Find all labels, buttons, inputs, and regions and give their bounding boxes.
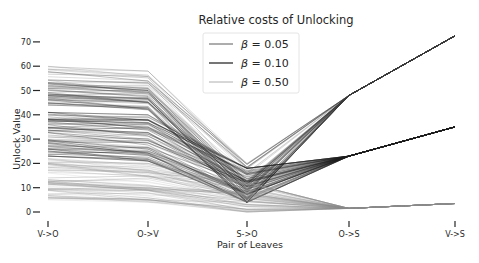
x-tick-label: O->S — [338, 230, 359, 239]
x-axis-label: Pair of Leaves — [217, 239, 283, 250]
legend-label: β = 0.05 — [240, 38, 289, 51]
series-lines — [48, 159, 455, 212]
y-tick-label: 60 — [21, 62, 31, 71]
y-tick-label: 50 — [21, 87, 31, 96]
parallel-coordinates-chart: Relative costs of Unlocking 010203040506… — [0, 0, 479, 263]
x-tick-label: S->O — [237, 230, 258, 239]
legend-label: β = 0.10 — [240, 57, 289, 70]
y-tick-label: 40 — [21, 111, 31, 120]
x-axis: V->OO->VS->OO->SV->S — [38, 221, 465, 239]
y-tick-label: 70 — [21, 38, 31, 47]
y-axis-label: Unlock Value — [11, 108, 22, 169]
x-tick-label: V->O — [38, 230, 59, 239]
legend-label: β = 0.50 — [240, 76, 289, 89]
legend: β = 0.05β = 0.10β = 0.50 — [203, 33, 299, 93]
y-axis: 010203040506070 — [21, 38, 40, 217]
y-tick-label: 0 — [26, 208, 31, 217]
x-tick-label: O->V — [137, 230, 159, 239]
y-tick-label: 20 — [21, 159, 31, 168]
y-tick-label: 10 — [21, 184, 31, 193]
y-tick-label: 30 — [21, 135, 31, 144]
x-tick-label: V->S — [445, 230, 465, 239]
chart-title: Relative costs of Unlocking — [199, 13, 354, 27]
